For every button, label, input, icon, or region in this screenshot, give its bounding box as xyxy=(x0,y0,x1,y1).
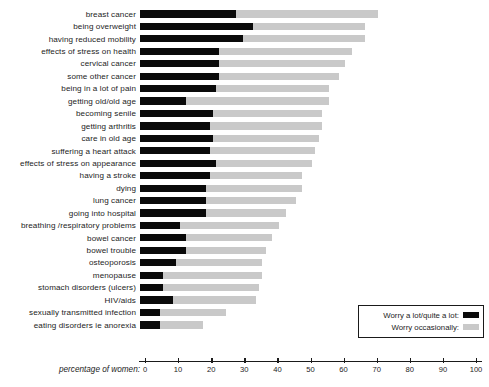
axis-tick-label: 100 xyxy=(470,365,483,374)
bar-segment-worry-a-lot xyxy=(140,97,186,104)
bar-segment-worry-a-lot xyxy=(140,296,173,303)
bar-segment-worry-a-lot xyxy=(140,234,186,241)
legend-label-worry-occasionally: Worry occasionally: xyxy=(392,323,463,332)
axis-tick-label: 80 xyxy=(406,365,414,374)
bar-segment-worry-occasionally xyxy=(160,309,226,316)
chart-row: dying xyxy=(0,182,489,194)
bar-segment-worry-a-lot xyxy=(140,222,180,229)
bar-segment-worry-a-lot xyxy=(140,73,219,80)
bar-segment-worry-occasionally xyxy=(219,60,345,67)
axis-tick xyxy=(145,358,146,363)
axis-tick-label: 10 xyxy=(174,365,182,374)
category-label: becoming senile xyxy=(0,109,140,118)
axis-tick xyxy=(344,358,345,363)
axis-tick xyxy=(277,358,278,363)
category-label: menopause xyxy=(0,271,140,280)
bar-segment-worry-occasionally xyxy=(206,209,285,216)
category-label: breathing /respiratory problems xyxy=(0,221,140,230)
axis-tick-label: 0 xyxy=(143,365,147,374)
chart-row: being overweight xyxy=(0,20,489,32)
axis-tick-label: 60 xyxy=(339,365,347,374)
bar-segment-worry-occasionally xyxy=(176,259,262,266)
axis-tick xyxy=(244,358,245,363)
chart-row: having reduced mobility xyxy=(0,33,489,45)
gray-swatch-icon xyxy=(463,324,479,330)
bar-segment-worry-occasionally xyxy=(213,110,322,117)
bar-segment-worry-occasionally xyxy=(216,85,329,92)
chart-row: getting arthritis xyxy=(0,120,489,132)
axis-tick-label: 30 xyxy=(240,365,248,374)
axis-tick xyxy=(211,358,212,363)
bar-area xyxy=(140,182,489,194)
axis-tick xyxy=(410,358,411,363)
bar-segment-worry-occasionally xyxy=(219,48,351,55)
black-swatch-icon xyxy=(463,312,479,318)
bar-area xyxy=(140,83,489,95)
bar-segment-worry-a-lot xyxy=(140,23,253,30)
bar-area xyxy=(140,33,489,45)
bar-segment-worry-a-lot xyxy=(140,259,176,266)
x-axis: 0102030405060708090100 xyxy=(145,361,476,362)
bar-area xyxy=(140,207,489,219)
bar-area xyxy=(140,244,489,256)
category-label: suffering a heart attack xyxy=(0,147,140,156)
category-label: getting old/old age xyxy=(0,97,140,106)
bar-area xyxy=(140,8,489,20)
bar-segment-worry-occasionally xyxy=(243,35,365,42)
bar-segment-worry-occasionally xyxy=(219,73,338,80)
bar-segment-worry-occasionally xyxy=(180,222,279,229)
chart-row: care in old age xyxy=(0,132,489,144)
chart-row: effects of stress on appearance xyxy=(0,157,489,169)
bar-area xyxy=(140,269,489,281)
bar-area xyxy=(140,95,489,107)
bar-segment-worry-a-lot xyxy=(140,35,243,42)
chart-row: lung cancer xyxy=(0,195,489,207)
bar-segment-worry-occasionally xyxy=(213,135,319,142)
axis-tick-label: 50 xyxy=(306,365,314,374)
bar-segment-worry-a-lot xyxy=(140,272,163,279)
category-label: getting arthritis xyxy=(0,122,140,131)
bar-segment-worry-occasionally xyxy=(206,185,302,192)
bar-area xyxy=(140,232,489,244)
axis-tick xyxy=(311,358,312,363)
bar-segment-worry-occasionally xyxy=(163,284,259,291)
chart-row: stomach disorders (ulcers) xyxy=(0,282,489,294)
chart-row: some other cancer xyxy=(0,70,489,82)
bar-area xyxy=(140,145,489,157)
bar-area xyxy=(140,257,489,269)
category-label: stomach disorders (ulcers) xyxy=(0,283,140,292)
bar-segment-worry-occasionally xyxy=(186,234,272,241)
bar-segment-worry-occasionally xyxy=(186,97,328,104)
bar-area xyxy=(140,120,489,132)
category-label: having a stroke xyxy=(0,171,140,180)
bar-area xyxy=(140,282,489,294)
bar-area xyxy=(140,170,489,182)
bar-area xyxy=(140,70,489,82)
chart-legend: Worry a lot/quite a lot: Worry occasiona… xyxy=(358,305,484,338)
axis-tick xyxy=(377,358,378,363)
chart-row: bowel trouble xyxy=(0,244,489,256)
bar-area xyxy=(140,20,489,32)
bar-area xyxy=(140,58,489,70)
chart-row: osteoporosis xyxy=(0,257,489,269)
bar-segment-worry-a-lot xyxy=(140,160,216,167)
bar-segment-worry-a-lot xyxy=(140,321,160,328)
legend-item-worry-a-lot: Worry a lot/quite a lot: xyxy=(363,309,479,321)
category-label: care in old age xyxy=(0,134,140,143)
legend-item-worry-occasionally: Worry occasionally: xyxy=(363,321,479,333)
bar-segment-worry-a-lot xyxy=(140,309,160,316)
category-label: eating disorders ie anorexia xyxy=(0,321,140,330)
axis-tick-label: 20 xyxy=(207,365,215,374)
axis-tick-label: 90 xyxy=(439,365,447,374)
category-label: cervical cancer xyxy=(0,59,140,68)
chart-row: breathing /respiratory problems xyxy=(0,219,489,231)
bar-segment-worry-occasionally xyxy=(206,197,295,204)
axis-tick-label: 70 xyxy=(372,365,380,374)
horizontal-stacked-bar-chart: breast cancerbeing overweighthaving redu… xyxy=(0,0,489,387)
category-label: effects of stress on appearance xyxy=(0,159,140,168)
bar-segment-worry-occasionally xyxy=(210,172,303,179)
chart-row: effects of stress on health xyxy=(0,45,489,57)
bar-segment-worry-a-lot xyxy=(140,197,206,204)
bar-segment-worry-occasionally xyxy=(216,160,312,167)
bar-segment-worry-a-lot xyxy=(140,85,216,92)
